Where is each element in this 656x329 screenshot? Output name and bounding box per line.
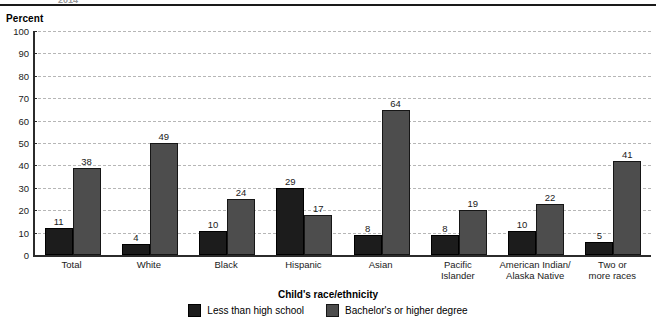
legend-swatch-icon [326, 304, 339, 317]
bar[interactable]: 11 [45, 228, 73, 255]
bar-value-label: 11 [54, 216, 64, 227]
bar-value-label: 17 [313, 203, 324, 214]
y-axis-tick-mark [33, 165, 37, 166]
bar-group: 1024 [199, 31, 253, 255]
bar[interactable]: 10 [508, 231, 536, 255]
plot-area: 1138449102429178648191022541 [33, 31, 651, 255]
bar[interactable]: 8 [354, 235, 382, 255]
y-axis-tick-mark [33, 143, 37, 144]
y-axis-tick-label: 50 [3, 138, 29, 149]
y-axis-tick-mark [33, 76, 37, 77]
bar-value-label: 29 [285, 176, 296, 187]
y-axis-tick-label: 30 [3, 182, 29, 193]
bar-value-label: 49 [159, 131, 170, 142]
bar[interactable]: 22 [536, 204, 564, 255]
bar[interactable]: 17 [304, 215, 332, 255]
bar[interactable]: 24 [227, 199, 255, 255]
bar[interactable]: 64 [382, 110, 410, 255]
x-axis-title: Child's race/ethnicity [0, 289, 656, 300]
bar[interactable]: 5 [585, 242, 613, 255]
bar-value-label: 8 [442, 223, 447, 234]
legend-label: Less than high school [207, 305, 304, 316]
legend-label: Bachelor's or higher degree [345, 305, 468, 316]
bar-group: 541 [585, 31, 639, 255]
y-axis-tick-label: 70 [3, 93, 29, 104]
y-axis-tick-labels: 0102030405060708090100 [0, 31, 29, 255]
bar-value-label: 64 [390, 98, 401, 109]
bar[interactable]: 29 [276, 188, 304, 255]
bar[interactable]: 49 [150, 143, 178, 255]
bar[interactable]: 38 [73, 168, 101, 255]
bar-group: 864 [354, 31, 408, 255]
bar-value-label: 22 [545, 192, 556, 203]
bar-value-label: 10 [208, 219, 219, 230]
bar[interactable]: 4 [122, 244, 150, 255]
bar-value-label: 19 [468, 198, 479, 209]
bar-value-label: 41 [622, 149, 633, 160]
x-axis-category-label: Asian [342, 259, 419, 270]
bar-value-label: 4 [133, 232, 138, 243]
bar-group: 819 [431, 31, 485, 255]
y-axis-tick-label: 90 [3, 48, 29, 59]
y-axis-tick-mark [33, 98, 37, 99]
y-axis-tick-mark [33, 255, 37, 256]
x-axis-category-label: Two or more races [574, 259, 651, 281]
legend-item[interactable]: Less than high school [188, 304, 304, 317]
y-axis-tick-label: 100 [3, 26, 29, 37]
bar-group: 449 [122, 31, 176, 255]
bar-group: 1022 [508, 31, 562, 255]
y-axis-tick-mark [33, 210, 37, 211]
header-divider [0, 4, 656, 6]
bar-value-label: 8 [365, 223, 370, 234]
bar-value-label: 24 [236, 187, 247, 198]
bar[interactable]: 19 [459, 210, 487, 255]
x-axis-category-label: Pacific Islander [419, 259, 496, 281]
bar[interactable]: 8 [431, 235, 459, 255]
y-axis-tick-label: 0 [3, 250, 29, 261]
y-axis-tick-mark [33, 121, 37, 122]
bar-group: 2917 [276, 31, 330, 255]
x-axis-category-label: Hispanic [265, 259, 342, 270]
bar[interactable]: 10 [199, 231, 227, 255]
y-axis-tick-label: 60 [3, 115, 29, 126]
y-axis-tick-mark [33, 31, 37, 32]
y-axis-tick-label: 40 [3, 160, 29, 171]
legend-swatch-icon [188, 304, 201, 317]
bar-group: 1138 [45, 31, 99, 255]
y-axis-tick-mark [33, 188, 37, 189]
bar[interactable]: 41 [613, 161, 641, 255]
chart-legend: Less than high schoolBachelor's or highe… [0, 304, 656, 317]
legend-item[interactable]: Bachelor's or higher degree [326, 304, 468, 317]
x-axis-line [33, 255, 651, 257]
x-axis-category-label: American Indian/ Alaska Native [497, 259, 574, 281]
y-axis-title: Percent [6, 13, 43, 24]
y-axis-tick-label: 20 [3, 205, 29, 216]
y-axis-tick-mark [33, 53, 37, 54]
y-axis-tick-label: 80 [3, 70, 29, 81]
x-axis-category-label: White [110, 259, 187, 270]
y-axis-tick-label: 10 [3, 227, 29, 238]
y-axis-tick-mark [33, 233, 37, 234]
x-axis-category-label: Total [33, 259, 110, 270]
bar-value-label: 5 [597, 230, 602, 241]
bar-value-label: 10 [517, 219, 528, 230]
x-axis-category-label: Black [188, 259, 265, 270]
bar-value-label: 38 [81, 156, 92, 167]
